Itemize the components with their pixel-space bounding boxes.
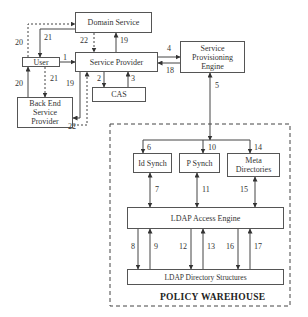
edge-label-22-bottom: 22: [68, 123, 76, 131]
domain-service-box: Domain Service: [75, 12, 152, 33]
ldap-directory-structures-box: LDAP Directory Structures: [127, 269, 284, 285]
edge-label-20-top: 20: [15, 39, 23, 47]
edge-label-7: 7: [155, 186, 159, 194]
edge-label-9: 9: [154, 243, 158, 251]
domain-service-label: Domain Service: [88, 18, 140, 27]
service-provider-box: Service Provider: [75, 52, 158, 72]
edge-label-18: 18: [166, 67, 174, 75]
id-synch-label: Id Synch: [138, 159, 167, 168]
cas-box: CAS: [92, 87, 146, 102]
edge-label-19-left: 19: [66, 80, 74, 88]
edge-label-12: 12: [179, 243, 187, 251]
edge-label-2: 2: [97, 75, 101, 83]
ldap-access-engine-box: LDAP Access Engine: [127, 207, 284, 229]
edge-label-11: 11: [202, 186, 210, 194]
cas-label: CAS: [111, 90, 127, 99]
policy-warehouse-title: POLICY WAREHOUSE: [160, 292, 265, 302]
user-label: User: [33, 58, 48, 67]
id-synch-box: Id Synch: [133, 153, 172, 173]
back-end-service-provider-box: Back End Service Provider: [17, 97, 73, 128]
meta-directories-label: Meta Directories: [234, 156, 273, 174]
edge-label-4: 4: [167, 45, 171, 53]
edge-label-3: 3: [131, 75, 135, 83]
edge-label-22-top: 22: [80, 37, 88, 45]
edge-label-20-bottom: 20: [15, 80, 23, 88]
edge-label-6: 6: [147, 144, 151, 152]
meta-directories-box: Meta Directories: [227, 153, 280, 177]
edge-label-21-bottom: 21: [50, 75, 58, 83]
p-synch-box: P Synch: [179, 153, 220, 173]
edge-label-15: 15: [240, 186, 248, 194]
edge-label-17: 17: [254, 243, 262, 251]
edge-label-14: 14: [254, 144, 262, 152]
edge-label-1: 1: [63, 54, 67, 62]
p-synch-label: P Synch: [186, 159, 212, 168]
edge-label-10: 10: [208, 144, 216, 152]
user-box: User: [22, 57, 60, 67]
back-end-service-provider-label: Back End Service Provider: [24, 99, 66, 126]
edge-label-5: 5: [215, 82, 219, 90]
service-provider-label: Service Provider: [90, 58, 144, 67]
edge-label-21-top: 21: [44, 34, 52, 42]
edge-label-16: 16: [226, 243, 234, 251]
ldap-access-engine-label: LDAP Access Engine: [171, 214, 240, 223]
ldap-directory-structures-label: LDAP Directory Structures: [164, 273, 246, 282]
service-provisioning-engine-label: Service Provisioning Engine: [187, 44, 238, 71]
edge-label-19-top: 19: [120, 37, 128, 45]
edge-label-13: 13: [207, 243, 215, 251]
edge-label-8: 8: [131, 243, 135, 251]
service-provisioning-engine-box: Service Provisioning Engine: [180, 41, 245, 73]
